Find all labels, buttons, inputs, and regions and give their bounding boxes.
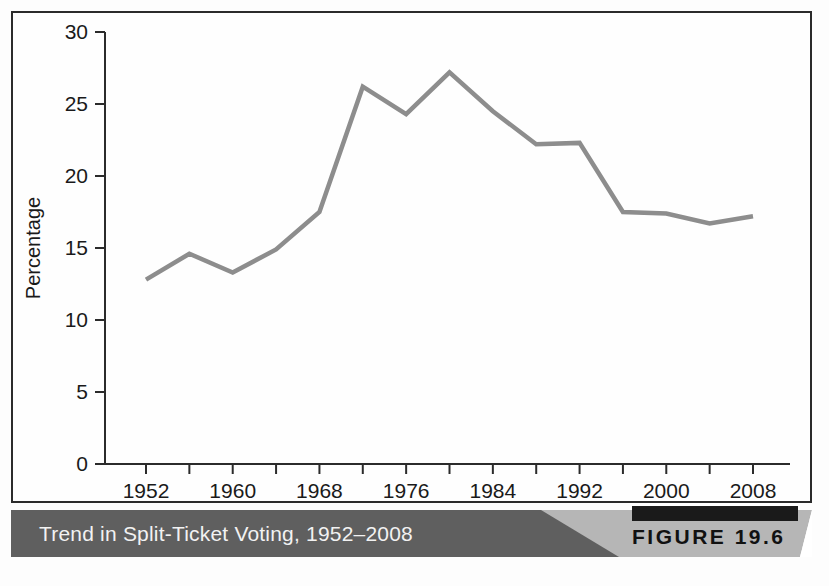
y-axis-tick-label: 30 (65, 20, 88, 43)
line-chart: 0510152025301952196019681976198419922000… (0, 0, 829, 505)
x-axis-tick-label: 1952 (123, 479, 170, 502)
x-axis-tick-label: 2000 (643, 479, 690, 502)
y-axis-tick-label: 20 (65, 164, 88, 187)
x-axis-tick-label: 1976 (383, 479, 430, 502)
figure-tag-accent-bar (632, 506, 798, 521)
x-axis-tick-label: 1992 (556, 479, 603, 502)
data-series-line (146, 72, 753, 279)
y-axis-tick-label: 0 (76, 452, 88, 475)
y-axis-tick-label: 10 (65, 308, 88, 331)
figure-container: 0510152025301952196019681976198419922000… (0, 0, 829, 586)
figure-tag-block: FIGURE 19.6 (632, 506, 798, 549)
y-axis-tick-label: 5 (76, 380, 88, 403)
y-axis-tick-label: 15 (65, 236, 88, 259)
y-axis-tick-label: 25 (65, 92, 88, 115)
caption-band: Trend in Split-Ticket Voting, 1952–2008 … (11, 510, 812, 557)
figure-caption: Trend in Split-Ticket Voting, 1952–2008 (39, 510, 413, 557)
figure-tag-label: FIGURE 19.6 (632, 525, 798, 549)
x-axis-tick-label: 2008 (730, 479, 777, 502)
x-axis-tick-label: 1968 (296, 479, 343, 502)
x-axis-tick-label: 1960 (209, 479, 256, 502)
y-axis-title: Percentage (22, 197, 44, 299)
x-axis-tick-label: 1984 (469, 479, 516, 502)
